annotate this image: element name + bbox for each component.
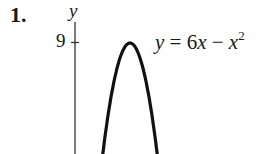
eq-x: x	[197, 30, 206, 54]
equation-label: y = 6x − x2	[155, 28, 245, 55]
eq-equals: = 6	[164, 30, 197, 54]
parabola-curve	[102, 43, 158, 154]
eq-lhs: y	[155, 30, 164, 54]
eq-exponent: 2	[238, 28, 245, 43]
eq-minus: −	[207, 30, 229, 54]
eq-x2: x	[229, 30, 238, 54]
parabola-plot	[0, 0, 265, 154]
